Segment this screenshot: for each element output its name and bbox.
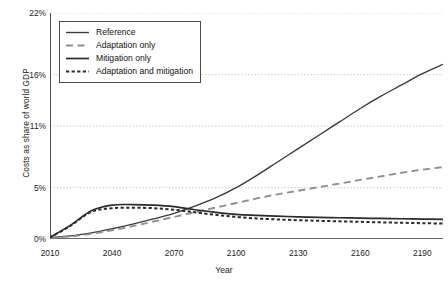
legend-item-label: Reference [96,27,136,38]
legend-line-icon [65,27,90,38]
x-tick-label: 2070 [151,248,197,258]
chart-legend: ReferenceAdaptation onlyMitigation onlyA… [59,21,201,83]
series-line-adaptation-only [50,167,443,238]
y-tick-label: 22% [6,8,46,18]
legend-item: Adaptation and mitigation [65,65,193,78]
y-tick-label: 5% [6,183,46,193]
legend-item: Adaptation only [65,39,193,52]
series-line-mitigation-only [50,204,443,237]
y-tick-label: 0% [6,234,46,244]
y-tick-label: 11% [6,121,46,131]
x-axis-tick-labels: 2010204020702100213021602190 [0,248,448,264]
legend-item: Mitigation only [65,52,193,65]
x-axis-title: Year [0,265,448,275]
y-tick-label: 16% [6,70,46,80]
series-line-reference [50,64,443,237]
x-tick-label: 2130 [275,248,321,258]
legend-item: Reference [65,26,193,39]
legend-line-icon [65,66,90,77]
y-axis-tick-labels: 0%5%11%16%22% [0,0,46,286]
x-tick-label: 2040 [89,248,135,258]
legend-line-icon [65,53,90,64]
legend-line-icon [65,40,90,51]
x-tick-label: 2010 [27,248,73,258]
series-line-adaptation-and-mitigation [50,208,443,238]
x-tick-label: 2160 [337,248,383,258]
x-tick-label: 2100 [213,248,259,258]
x-tick-label: 2190 [399,248,445,258]
legend-item-label: Adaptation only [96,40,155,51]
chart-figure: Costs as share of world GDP Year 0%5%11%… [0,0,448,286]
legend-item-label: Mitigation only [96,53,151,64]
legend-item-label: Adaptation and mitigation [96,66,193,77]
